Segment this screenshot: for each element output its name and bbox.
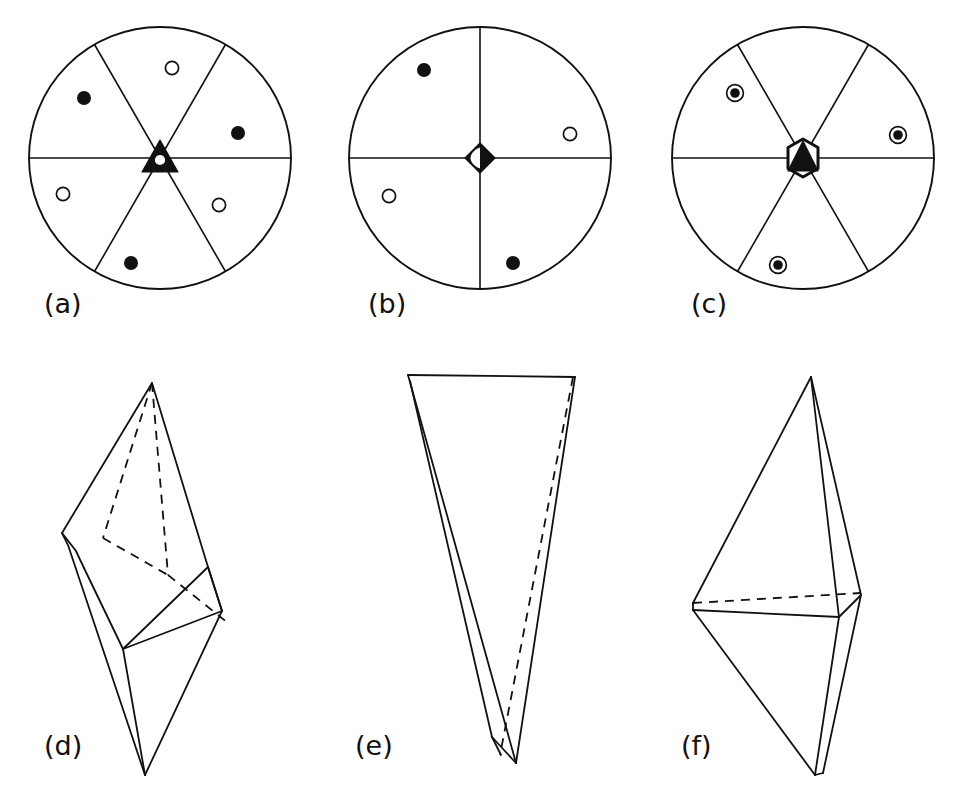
marker-filled-lower [124,256,138,270]
panel-label-d: (d) [44,730,82,761]
panel-label-c: (c) [691,288,727,319]
marker-open-right [563,127,576,140]
marker-superimposed-upper-left [727,85,744,102]
visible-edge-bottom-apex-facet [815,773,823,775]
marker-open-lower-right [212,198,225,211]
inversion-axis-4bar-icon [465,143,495,173]
figure-root: (a) (b) [0,0,957,800]
marker-filled-right [231,126,245,140]
visible-edge-top-to-right-back [811,377,861,595]
marker-superimposed-lower [770,257,787,274]
visible-edge-equator-front [693,610,839,617]
marker-filled-lower-right [506,256,520,270]
visible-edge-top-to-left [693,377,811,603]
marker-filled-upper-left [77,91,91,105]
visible-edge-left-long [408,375,516,763]
inversion-axis-3bar-icon [142,140,178,172]
marker-open-upper [165,61,178,74]
visible-edge-top [408,375,575,377]
panel-label-f: (f) [681,730,712,761]
panel-e-polyhedron: (e) [320,355,650,800]
panel-d-polyhedron: (d) [0,355,330,800]
hidden-edge-back-vertical [500,377,573,755]
panel-label-b: (b) [368,288,406,319]
visible-edge-left-silhouette [62,383,152,775]
panel-label-e: (e) [355,730,393,761]
marker-open-lower-left [382,189,395,202]
visible-edge-top-to-front [811,377,839,617]
hidden-edge-top-to-back-left [103,383,152,538]
marker-superimposed-right [890,127,907,144]
inversion-axis-6bar-icon [788,139,818,177]
panel-a-stereogram: (a) [0,0,330,340]
panel-b-stereogram: (b) [320,0,650,340]
visible-edge-bottom-left [123,649,145,775]
visible-edge-right-long [516,377,575,763]
visible-edge-left-inner [410,381,492,737]
marker-filled-upper-left [417,63,431,77]
visible-edge-right-silhouette [145,383,222,775]
panel-label-a: (a) [44,288,82,319]
visible-edge-middle-diagonal [123,567,208,649]
hidden-edge-back-left-to-back [103,538,168,575]
marker-open-left [56,187,69,200]
panel-f-polyhedron: (f) [643,355,957,800]
visible-edge-right-corner [208,567,222,611]
panel-c-stereogram: (c) [643,0,957,340]
